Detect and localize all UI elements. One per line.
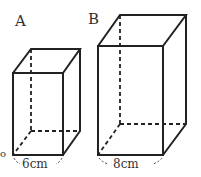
label-a: A xyxy=(15,12,26,30)
label-b: B xyxy=(88,10,99,28)
prism-b xyxy=(98,15,186,155)
dimension-a: 6cm xyxy=(22,157,48,171)
dimension-b: 8cm xyxy=(113,157,139,171)
prism-a xyxy=(13,49,80,155)
prisms-diagram xyxy=(0,0,201,177)
stray-mark: o xyxy=(0,148,6,159)
